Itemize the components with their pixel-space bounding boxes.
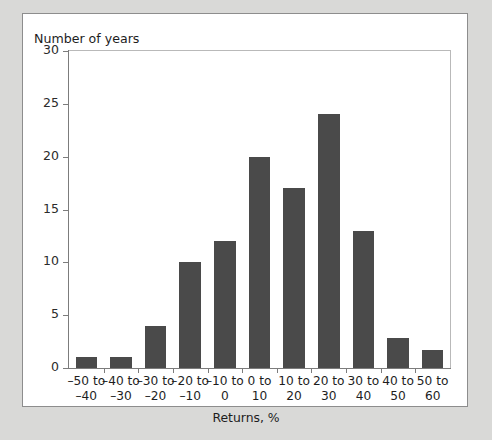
- x-tick: [208, 368, 209, 373]
- x-tick: [415, 368, 416, 373]
- bar: [318, 114, 339, 368]
- x-tick: [104, 368, 105, 373]
- x-axis-title: Returns, %: [23, 410, 469, 425]
- y-tick-label-25: 25: [25, 97, 59, 109]
- x-category-label: 50 to60: [409, 374, 456, 403]
- page-background: Number of years 051015202530 –50 to–40–4…: [0, 0, 492, 440]
- y-tick-label-0: 0: [25, 361, 59, 373]
- x-tick: [277, 368, 278, 373]
- x-axis-line: [68, 368, 451, 369]
- bar: [387, 338, 408, 368]
- x-category-label-line: 50 to: [409, 374, 456, 389]
- x-tick: [346, 368, 347, 373]
- chart-panel: Number of years 051015202530 –50 to–40–4…: [22, 13, 468, 407]
- bar-series: [69, 51, 450, 368]
- x-tick: [381, 368, 382, 373]
- x-tick: [242, 368, 243, 373]
- bar: [249, 157, 270, 368]
- bar: [283, 188, 304, 368]
- y-tick-label-5: 5: [25, 308, 59, 320]
- y-tick-label-20: 20: [25, 150, 59, 162]
- y-tick-label-15: 15: [25, 203, 59, 215]
- bar: [353, 231, 374, 368]
- x-tick: [173, 368, 174, 373]
- plot-right-border: [450, 50, 451, 369]
- bar: [145, 326, 166, 368]
- y-tick-label-10: 10: [25, 255, 59, 267]
- bar: [214, 241, 235, 368]
- y-tick-label-30: 30: [25, 44, 59, 56]
- x-category-label-line: 60: [409, 389, 456, 404]
- bar: [110, 357, 131, 368]
- bar: [179, 262, 200, 368]
- bar: [422, 350, 443, 368]
- x-tick: [311, 368, 312, 373]
- bar: [76, 357, 97, 368]
- x-tick: [138, 368, 139, 373]
- y-tick-0: [63, 368, 69, 369]
